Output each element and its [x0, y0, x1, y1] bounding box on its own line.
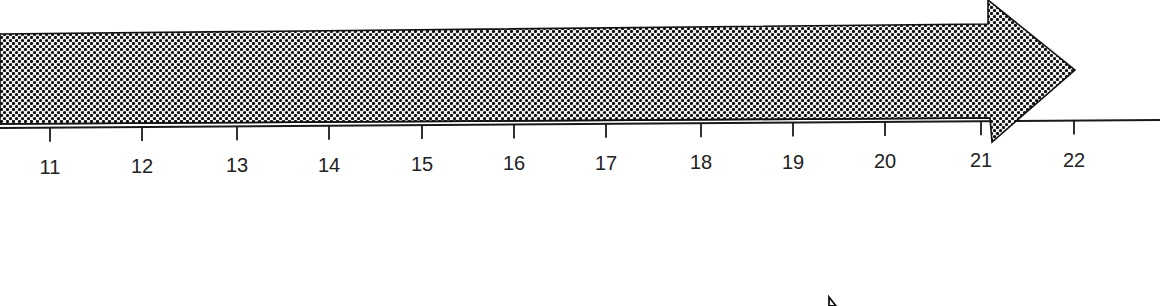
timeline-diagram: 111213141516171819202122 — [0, 0, 1172, 306]
tick-label: 17 — [595, 152, 617, 175]
tick-label: 13 — [226, 154, 248, 177]
tick-label: 14 — [318, 154, 340, 177]
tick-label: 19 — [782, 151, 804, 174]
tick-label: 18 — [690, 151, 712, 174]
tick-label: 12 — [131, 155, 153, 178]
tick-label: 21 — [970, 149, 992, 172]
tick-label: 22 — [1063, 149, 1085, 172]
tick-label: 15 — [411, 153, 433, 176]
tick-label: 16 — [503, 152, 525, 175]
tick-label: 20 — [874, 150, 896, 173]
cursor-arrow-icon — [829, 297, 836, 306]
timeline-svg — [0, 0, 1172, 306]
tick-label: 11 — [40, 156, 61, 179]
